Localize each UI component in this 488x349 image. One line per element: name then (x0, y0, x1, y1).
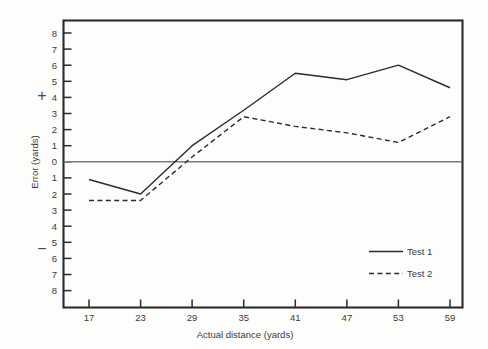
series-line-test-1 (89, 65, 450, 194)
x-axis-ticks (89, 300, 450, 308)
x-tick-label: 59 (445, 312, 456, 323)
x-tick-label: 35 (238, 312, 249, 323)
x-axis-title: Actual distance (yards) (197, 329, 294, 340)
series-line-test-2 (89, 117, 450, 201)
y-tick-label: 7 (52, 44, 57, 55)
x-tick-label: 23 (135, 312, 146, 323)
y-tick-label: 1 (52, 172, 57, 183)
chart-legend: Test 1 Test 2 (369, 246, 432, 279)
y-tick-label: 8 (52, 285, 57, 296)
y-tick-label: 3 (52, 108, 57, 119)
x-tick-label: 17 (84, 312, 95, 323)
y-tick-label: 1 (52, 140, 57, 151)
x-tick-label: 53 (393, 312, 404, 323)
y-axis-title: Error (yards) (29, 135, 40, 188)
y-tick-label: 5 (52, 237, 57, 248)
y-axis-tick-labels: 8 7 6 5 4 3 2 1 0 1 2 3 4 5 6 7 8 (52, 28, 57, 297)
y-tick-label: 0 (52, 156, 57, 167)
y-tick-label: 3 (52, 205, 57, 216)
x-tick-label: 47 (342, 312, 353, 323)
legend-label-test-1: Test 1 (407, 246, 432, 257)
y-tick-label: 2 (52, 124, 57, 135)
x-tick-label: 29 (187, 312, 198, 323)
plus-sign-symbol: + (37, 87, 46, 104)
y-tick-label: 8 (52, 28, 57, 39)
plot-frame (64, 21, 463, 308)
x-axis-tick-labels: 17 23 29 35 41 47 53 59 (84, 312, 456, 323)
y-tick-label: 5 (52, 76, 57, 87)
minus-sign-symbol: − (37, 240, 46, 257)
y-tick-label: 6 (52, 253, 57, 264)
y-tick-label: 4 (52, 92, 57, 103)
y-tick-label: 2 (52, 189, 57, 200)
x-tick-label: 41 (290, 312, 301, 323)
chart-figure: 8 7 6 5 4 3 2 1 0 1 2 3 4 5 6 7 8 + − Er… (0, 0, 488, 349)
y-tick-label: 6 (52, 60, 57, 71)
legend-label-test-2: Test 2 (407, 268, 432, 279)
y-tick-label: 7 (52, 269, 57, 280)
line-chart: 8 7 6 5 4 3 2 1 0 1 2 3 4 5 6 7 8 + − Er… (0, 0, 488, 349)
y-tick-label: 4 (52, 221, 57, 232)
